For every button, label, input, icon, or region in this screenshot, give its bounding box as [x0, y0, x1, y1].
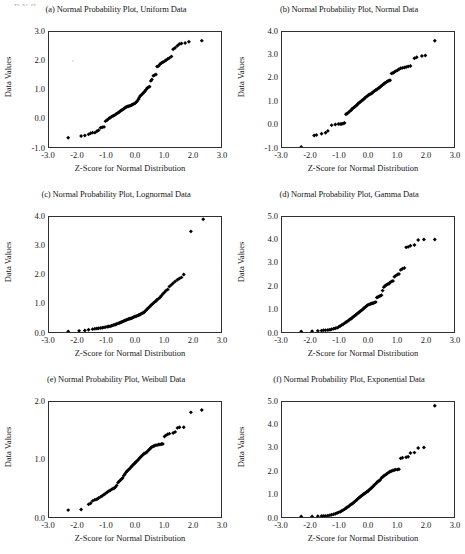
data-point	[66, 508, 70, 512]
normal-probability-plot-figure-grid: (a) Normal Probability Plot, Uniform Dat…	[0, 0, 465, 554]
x-tick-label: -3.0	[266, 150, 296, 160]
y-axis-label-d: Data Values	[236, 232, 246, 292]
data-point	[381, 289, 385, 293]
x-tick-label: -3.0	[266, 520, 296, 530]
data-point	[87, 328, 91, 332]
x-axis-label-d: Z-Score for Normal Distribution	[263, 348, 463, 358]
x-tick-label: 2.0	[178, 520, 208, 530]
x-tick-label: -1.0	[324, 520, 354, 530]
x-tick-label: -1.0	[324, 150, 354, 160]
y-tick-label: 0.0	[3, 114, 45, 123]
x-tick-label: 3.0	[440, 520, 465, 530]
plot-area-e	[48, 401, 222, 518]
panel-title-d: (d) Normal Probability Plot, Gamma Data	[233, 189, 465, 200]
y-tick-label: 5.0	[236, 397, 278, 406]
x-tick-label: -2.0	[62, 520, 92, 530]
data-point	[189, 410, 193, 414]
data-point	[422, 238, 426, 242]
plot-area-d	[281, 216, 455, 333]
panel-title-f: (f) Normal Probability Plot, Exponential…	[233, 374, 465, 385]
y-tick-label: 4.0	[3, 212, 45, 221]
plot-area-c	[48, 216, 222, 333]
data-point	[201, 217, 205, 221]
x-tick-label: -1.0	[91, 150, 121, 160]
x-tick-label: -3.0	[33, 520, 63, 530]
x-tick-label: 0.0	[353, 150, 383, 160]
panel-title-a: (a) Normal Probability Plot, Uniform Dat…	[0, 4, 232, 15]
data-point	[66, 136, 70, 140]
x-tick-label: 1.0	[149, 150, 179, 160]
x-tick-label: 1.0	[382, 520, 412, 530]
x-tick-label: -1.0	[91, 520, 121, 530]
x-tick-label: 2.0	[411, 150, 441, 160]
x-tick-label: -2.0	[295, 335, 325, 345]
data-point	[182, 273, 186, 277]
data-point	[423, 53, 427, 57]
x-tick-label: 1.0	[149, 520, 179, 530]
panel-title-b: (b) Normal Probability Plot, Normal Data	[233, 4, 465, 15]
chart-panel-a: (a) Normal Probability Plot, Uniform Dat…	[0, 0, 232, 185]
data-point	[433, 404, 437, 408]
y-axis-label-b: Data Values	[236, 47, 246, 107]
x-tick-label: -3.0	[266, 335, 296, 345]
x-axis-label-c: Z-Score for Normal Distribution	[30, 348, 230, 358]
x-tick-label: -1.0	[91, 335, 121, 345]
data-point-group	[66, 39, 204, 140]
data-point	[187, 40, 191, 44]
data-point	[200, 408, 204, 412]
scatter-canvas-a	[49, 32, 221, 147]
x-axis-ticks-f: -3.0-2.0-1.00.01.02.03.0	[281, 520, 455, 532]
panel-title-c: (c) Normal Probability Plot, Lognormal D…	[0, 189, 232, 200]
data-point	[420, 54, 424, 58]
x-tick-label: -1.0	[324, 335, 354, 345]
data-point	[316, 329, 320, 332]
x-tick-label: 2.0	[178, 335, 208, 345]
plot-area-b	[281, 31, 455, 148]
y-tick-label: 2.0	[3, 397, 45, 406]
data-point	[83, 329, 87, 332]
data-point-group	[66, 408, 204, 512]
scatter-canvas-d	[282, 217, 454, 332]
scatter-canvas-c	[49, 217, 221, 332]
data-point	[433, 238, 437, 242]
data-point	[183, 41, 187, 45]
x-tick-label: -3.0	[33, 150, 63, 160]
data-point	[83, 134, 87, 138]
x-tick-label: 2.0	[411, 335, 441, 345]
chart-panel-e: (e) Normal Probability Plot, Weibull Dat…	[0, 370, 232, 554]
plot-area-a	[48, 31, 222, 148]
data-point	[412, 451, 416, 455]
y-axis-label-f: Data Values	[236, 417, 246, 477]
data-point	[412, 243, 416, 247]
x-tick-label: 2.0	[178, 150, 208, 160]
x-tick-label: -2.0	[62, 335, 92, 345]
data-point-group	[66, 217, 205, 332]
y-tick-label: 1.0	[3, 299, 45, 308]
scan-speck	[72, 60, 74, 62]
x-tick-label: -3.0	[33, 335, 63, 345]
y-tick-label: 0.0	[236, 120, 278, 129]
x-axis-ticks-b: -3.0-2.0-1.00.01.02.03.0	[281, 150, 455, 162]
x-axis-ticks-c: -3.0-2.0-1.00.01.02.03.0	[48, 335, 222, 347]
x-tick-label: 3.0	[440, 150, 465, 160]
x-axis-label-b: Z-Score for Normal Distribution	[263, 163, 463, 173]
data-point	[299, 330, 303, 332]
x-axis-ticks-a: -3.0-2.0-1.00.01.02.03.0	[48, 150, 222, 162]
data-point-group	[299, 238, 437, 332]
scatter-canvas-f	[282, 402, 454, 517]
x-tick-label: -2.0	[295, 150, 325, 160]
data-point	[182, 425, 186, 429]
x-axis-ticks-d: -3.0-2.0-1.00.01.02.03.0	[281, 335, 455, 347]
scatter-canvas-e	[49, 402, 221, 517]
chart-panel-c: (c) Normal Probability Plot, Lognormal D…	[0, 185, 232, 370]
x-tick-label: 0.0	[120, 335, 150, 345]
data-point	[310, 515, 314, 517]
data-point	[77, 329, 81, 332]
data-point	[316, 514, 320, 517]
data-point-group	[299, 39, 437, 147]
panel-title-e: (e) Normal Probability Plot, Weibull Dat…	[0, 374, 232, 385]
y-tick-label: 3.0	[3, 27, 45, 36]
y-tick-label: 1.0	[236, 490, 278, 499]
data-point	[79, 508, 83, 512]
data-point	[416, 238, 420, 242]
